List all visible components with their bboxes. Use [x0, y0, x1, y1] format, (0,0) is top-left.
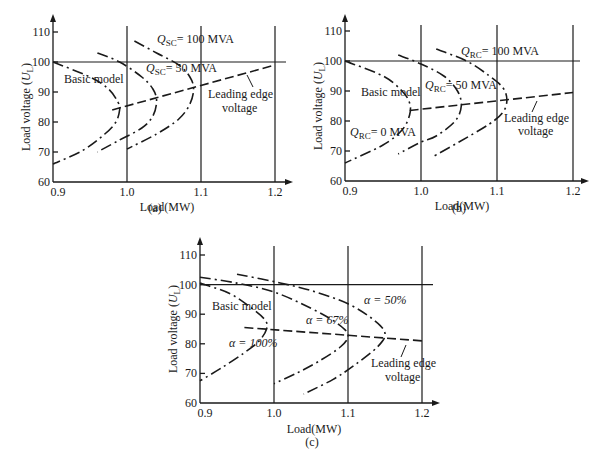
annotation-basic-model-c: Basic model — [212, 299, 272, 313]
y-tick-label: 110 — [324, 24, 342, 38]
caption-b: (b) — [452, 201, 466, 215]
y-axis-title: Load voltage (UL) — [311, 62, 327, 150]
pv-curve — [398, 55, 461, 154]
annotation-leading-edge-b-line2: voltage — [518, 124, 553, 138]
y-tick-label: 70 — [38, 145, 50, 159]
caption-a: (a) — [148, 201, 161, 215]
annotation-leading-edge-b-line1: Leading edge — [504, 111, 569, 125]
y-tick-label: 100 — [324, 54, 342, 68]
x-tick-label: 1.2 — [566, 184, 581, 198]
y-tick-label: 110 — [32, 25, 50, 39]
x-tick-label: 0.9 — [198, 406, 213, 420]
y-axis-title: Load voltage (UL) — [19, 63, 35, 151]
y-axis-arrow-icon — [50, 14, 56, 22]
y-tick-label: 80 — [185, 337, 197, 351]
leader-line-a — [247, 75, 253, 87]
x-axis-arrow-icon — [285, 179, 293, 185]
y-tick-label: 80 — [38, 115, 50, 129]
annotation-alpha50-c: α = 50% — [364, 293, 406, 307]
annotation-qsc100-a: QSC= 100 MVA — [157, 32, 234, 48]
y-tick-label: 100 — [32, 55, 50, 69]
x-tick-label: 0.9 — [51, 185, 66, 199]
chart-panel-c: 607080901001100.91.01.11.2Load(MW)Load v… — [166, 237, 440, 436]
y-tick-label: 90 — [38, 85, 50, 99]
x-axis-arrow-icon — [581, 178, 589, 184]
annotation-leading-edge-a-line2: voltage — [222, 101, 257, 115]
x-tick-label: 1.0 — [414, 184, 429, 198]
annotation-basic-model-b: Basic model — [361, 85, 421, 99]
leading-edge-voltage-line — [410, 93, 573, 111]
x-tick-label: 1.1 — [490, 184, 505, 198]
y-tick-label: 110 — [179, 248, 197, 262]
annotation-basic-model-a: Basic model — [64, 72, 124, 86]
y-tick-label: 70 — [330, 144, 342, 158]
y-tick-label: 60 — [185, 396, 197, 410]
caption-c: (c) — [305, 435, 318, 449]
x-axis-title: Load(MW) — [287, 422, 342, 436]
x-tick-label: 1.0 — [120, 185, 135, 199]
annotation-leading-edge-c-line1: Leading edge — [371, 356, 436, 370]
y-tick-label: 90 — [330, 84, 342, 98]
annotation-leading-edge-c-line2: voltage — [385, 370, 420, 384]
pv-curve — [432, 49, 506, 157]
x-tick-label: 1.2 — [268, 185, 283, 199]
y-axis-title: Load voltage (UL) — [166, 285, 182, 373]
x-axis-arrow-icon — [432, 400, 440, 406]
y-axis-arrow-icon — [342, 14, 348, 22]
pv-curve — [200, 283, 267, 381]
y-axis-arrow-icon — [197, 237, 203, 245]
annotation-qsc50-a: QSC= 50 MVA — [146, 61, 217, 77]
y-tick-label: 60 — [38, 175, 50, 189]
annotation-alpha100-c: α = 100% — [229, 336, 277, 350]
y-tick-label: 80 — [330, 114, 342, 128]
figure-canvas: 607080901001100.91.01.11.2Load(MW)Load v… — [0, 0, 594, 467]
pv-curve — [237, 274, 385, 394]
annotation-qrc50-b: QRC= 50 MVA — [425, 78, 497, 94]
y-tick-label: 70 — [185, 366, 197, 380]
annotation-alpha67-c: α = 67% — [306, 313, 348, 327]
pv-curve — [127, 41, 194, 149]
y-tick-label: 60 — [330, 174, 342, 188]
x-tick-label: 1.2 — [415, 406, 430, 420]
x-tick-label: 1.1 — [341, 406, 356, 420]
x-tick-label: 1.1 — [194, 185, 209, 199]
annotation-qrc0-b: QRC= 0 MVA — [350, 125, 416, 141]
annotation-leading-edge-a-line1: Leading edge — [208, 87, 273, 101]
x-tick-label: 1.0 — [267, 406, 282, 420]
annotation-qrc100-b: QRC= 100 MVA — [461, 44, 539, 60]
pv-curve — [345, 61, 411, 163]
x-tick-label: 0.9 — [343, 184, 358, 198]
y-tick-label: 90 — [185, 307, 197, 321]
